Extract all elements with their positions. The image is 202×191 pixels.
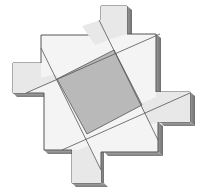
edge-bottom-ledge xyxy=(104,152,163,156)
edge-right-lower xyxy=(158,122,163,156)
edge-top-tab-right xyxy=(127,6,132,37)
pinwheel-diagram xyxy=(0,0,202,191)
pinwheel-tile-figure: Isometric tile figure: pinwheel-shaped s… xyxy=(0,0,202,191)
edge-right-tab-bottom xyxy=(160,122,195,126)
edge-right-upper xyxy=(156,34,161,95)
edge-bottom-left-ledge xyxy=(44,150,76,154)
edge-left-tab-bottom xyxy=(13,93,48,97)
edge-right-tab xyxy=(190,92,195,126)
edge-bottom-tab-bottom xyxy=(72,183,108,187)
